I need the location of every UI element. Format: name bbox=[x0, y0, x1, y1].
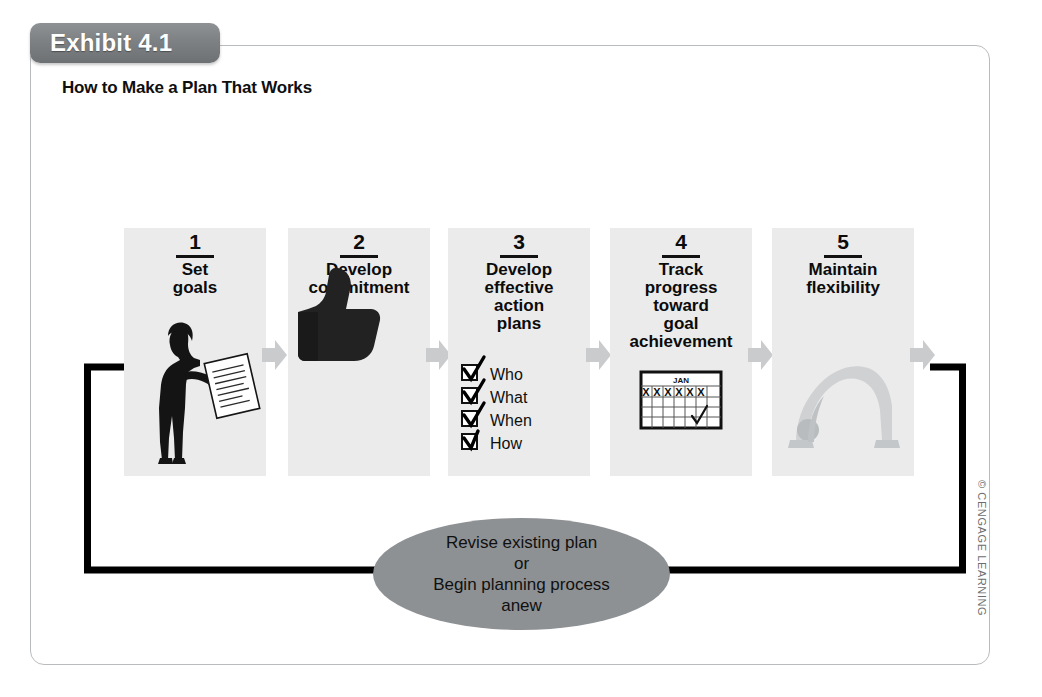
flow-arrow-3-4 bbox=[586, 338, 612, 372]
checkbox-checked-icon[interactable] bbox=[462, 433, 484, 455]
svg-text:X: X bbox=[653, 386, 661, 398]
step-5-rule bbox=[824, 255, 862, 258]
action-plan-checklist: Who What When bbox=[462, 364, 582, 456]
step-3-title-line1: Develop bbox=[448, 261, 590, 279]
step-4-header: 4 Track progress toward goal achievement bbox=[610, 228, 752, 351]
step-box-4[interactable]: 4 Track progress toward goal achievement… bbox=[610, 228, 752, 476]
copyright-notice: © CENGAGE LEARNING bbox=[976, 480, 988, 616]
step-4-title-line1: Track bbox=[610, 261, 752, 279]
step-3-title-line2: effective bbox=[448, 279, 590, 297]
step-1-header: 1 Set goals bbox=[124, 228, 266, 297]
svg-text:X: X bbox=[642, 386, 650, 398]
step-box-3[interactable]: 3 Develop effective action plans Who bbox=[448, 228, 590, 476]
oval-line-1: Revise existing plan bbox=[446, 532, 597, 553]
svg-text:X: X bbox=[686, 386, 694, 398]
revise-plan-oval[interactable]: Revise existing plan or Begin planning p… bbox=[373, 518, 670, 630]
flow-arrow-1-2 bbox=[262, 338, 288, 372]
step-4-title-line4: goal bbox=[610, 315, 752, 333]
oval-line-4: anew bbox=[501, 595, 542, 616]
step-5-number: 5 bbox=[772, 231, 914, 253]
calendar-month-label: JAN bbox=[673, 376, 689, 385]
step-1-title-line2: goals bbox=[124, 279, 266, 297]
checklist-item-label: What bbox=[490, 389, 527, 407]
step-5-header: 5 Maintain flexibility bbox=[772, 228, 914, 297]
svg-text:X: X bbox=[675, 386, 683, 398]
gymnast-backbend-icon bbox=[772, 314, 914, 464]
svg-text:X: X bbox=[664, 386, 672, 398]
checklist-item-label: Who bbox=[490, 366, 523, 384]
thumbs-up-icon bbox=[288, 250, 430, 410]
checklist-item-label: How bbox=[490, 435, 522, 453]
step-5-title-line2: flexibility bbox=[772, 279, 914, 297]
step-1-rule bbox=[176, 255, 214, 258]
oval-line-3: Begin planning process bbox=[433, 574, 610, 595]
step-4-title-line5: achievement bbox=[610, 333, 752, 351]
step-3-header: 3 Develop effective action plans bbox=[448, 228, 590, 333]
step-4-title-line3: toward bbox=[610, 297, 752, 315]
calendar-icon: JAN X X X X X X bbox=[610, 370, 752, 434]
step-3-rule bbox=[500, 255, 538, 258]
exhibit-label-text: Exhibit 4.1 bbox=[50, 29, 172, 57]
checklist-item-label: When bbox=[490, 412, 532, 430]
checklist-item[interactable]: How bbox=[462, 433, 582, 455]
step-box-1[interactable]: 1 Set goals bbox=[124, 228, 266, 476]
oval-line-2: or bbox=[514, 553, 529, 574]
step-box-5[interactable]: 5 Maintain flexibility bbox=[772, 228, 914, 476]
step-5-title-line1: Maintain bbox=[772, 261, 914, 279]
step-4-rule bbox=[662, 255, 700, 258]
flow-arrow-4-5 bbox=[748, 338, 774, 372]
page-title: How to Make a Plan That Works bbox=[62, 78, 312, 98]
step-1-title-line1: Set bbox=[124, 261, 266, 279]
step-3-title-line3: action bbox=[448, 297, 590, 315]
step-box-2[interactable]: 2 Develop commitment bbox=[288, 228, 430, 476]
step-4-title-line2: progress bbox=[610, 279, 752, 297]
step-3-title-line4: plans bbox=[448, 315, 590, 333]
flow-arrow-5-loop bbox=[910, 338, 936, 372]
person-with-document-icon bbox=[124, 312, 266, 472]
step-1-number: 1 bbox=[124, 231, 266, 253]
svg-text:X: X bbox=[697, 386, 705, 398]
step-4-number: 4 bbox=[610, 231, 752, 253]
exhibit-label-pill: Exhibit 4.1 bbox=[30, 23, 220, 63]
step-3-number: 3 bbox=[448, 231, 590, 253]
